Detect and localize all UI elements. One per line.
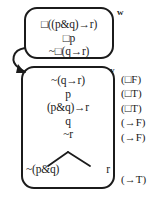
world-v-formula-list: ~(q→r) p (p&q)→r q ~r — [23, 74, 113, 142]
tableau-diagram: □((p&q)→r) □p ~□(q→r) w ~(q→r) p (p&q)→r… — [0, 0, 162, 197]
annotation-5: (→F) — [121, 130, 162, 144]
formula-v-1: ~(q→r) — [23, 74, 113, 88]
annotation-6: (→T) — [121, 172, 162, 186]
formula-w-1: □((p&q)→r) — [26, 18, 112, 32]
branch-right-formula: r — [106, 163, 110, 176]
annotation-2: (□T) — [121, 86, 162, 100]
formula-v-5: ~r — [23, 128, 113, 142]
formula-v-4: q — [23, 115, 113, 129]
world-w-formula-list: □((p&q)→r) □p ~□(q→r) — [26, 18, 112, 59]
rule-annotation-column: (□F) (□T) (□T) (→F) (→F) (→T) — [121, 72, 162, 186]
formula-v-3: (p&q)→r — [23, 101, 113, 115]
world-label-w: w — [117, 8, 124, 17]
annotation-4: (→F) — [121, 115, 162, 129]
tableau-branch-row: ~(p&q) r — [21, 163, 115, 176]
formula-v-2: p — [23, 88, 113, 102]
accessibility-arrow-icon — [13, 48, 25, 73]
world-label-v: v — [110, 66, 115, 75]
world-w-box: □((p&q)→r) □p ~□(q→r) — [24, 7, 114, 59]
annotation-3: (□T) — [121, 101, 162, 115]
branch-left-formula: ~(p&q) — [26, 163, 59, 176]
formula-w-3: ~□(q→r) — [26, 45, 112, 59]
annotation-1: (□F) — [121, 72, 162, 86]
formula-w-2: □p — [26, 32, 112, 46]
